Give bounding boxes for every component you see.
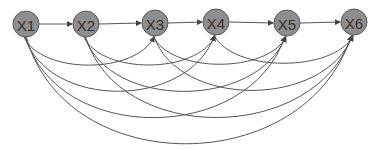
edge-x3-x6 (154, 36, 353, 90)
edge-x2-x3 (99, 23, 141, 24)
node-label: X6 (345, 15, 363, 32)
node-x3: X3 (142, 10, 168, 36)
edge-x5-x6 (300, 22, 340, 23)
edge-x1-x4 (25, 36, 215, 91)
edge-x3-x4 (168, 22, 202, 23)
node-x2: X2 (73, 11, 99, 37)
node-x6: X6 (341, 9, 367, 35)
node-label: X1 (17, 17, 35, 34)
edge-x4-x5 (229, 22, 273, 23)
node-x1: X1 (13, 11, 39, 37)
node-label: X2 (77, 17, 95, 34)
edge-x1-x6 (26, 36, 351, 144)
edge-x1-x3 (24, 37, 154, 65)
edges-layer (24, 22, 353, 144)
diagram-canvas: X1X2X3X4X5X6 (0, 0, 379, 150)
node-x5: X5 (274, 10, 300, 36)
node-label: X3 (146, 16, 164, 33)
edge-x2-x6 (86, 36, 352, 118)
edge-x3-x5 (153, 36, 286, 64)
node-x4: X4 (203, 9, 229, 35)
edge-x2-x4 (84, 36, 215, 65)
node-label: X5 (278, 16, 296, 33)
node-label: X4 (207, 15, 225, 32)
